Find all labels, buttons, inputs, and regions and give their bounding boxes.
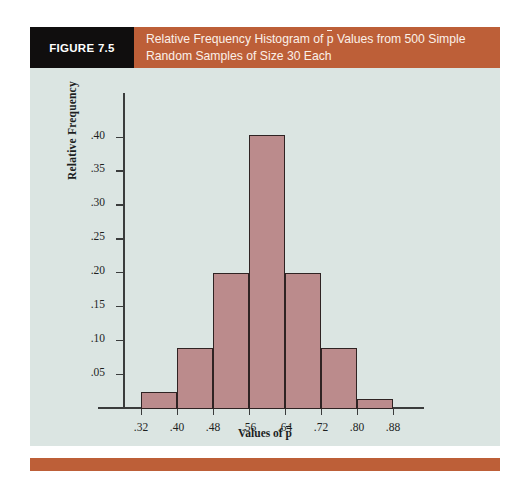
y-tick-label: .35 [91,162,105,174]
y-tick-label: .30 [91,196,105,208]
figure-number-label: FIGURE 7.5 [49,42,115,54]
x-tick [213,409,214,415]
bottom-rule [30,458,500,471]
x-axis-title: Values of p [30,427,500,439]
figure-title: Relative Frequency Histogram of p Values… [146,31,492,64]
figure-title-wrap: Relative Frequency Histogram of p Values… [134,27,500,68]
y-tick-label: .40 [91,129,105,141]
x-tick [357,409,358,415]
p-bar-symbol-axis: p [286,427,292,439]
y-tick-label: .15 [91,298,105,310]
y-tick: .25 [116,238,123,239]
p-bar-symbol-title: p [327,31,334,48]
y-tick: .10 [116,340,123,341]
x-tick [393,409,394,415]
histogram-bar [213,273,249,409]
x-tick [321,409,322,415]
figure-header-band: FIGURE 7.5 Relative Frequency Histogram … [30,27,500,68]
y-tick: .15 [116,306,123,307]
y-tick-label: .20 [91,264,105,276]
histogram-bar [177,348,213,409]
y-axis-title: Relative Frequency [66,81,78,180]
y-tick: .35 [116,170,123,171]
x-tick [285,409,286,415]
x-tick [249,409,250,415]
histogram-bar [249,135,285,409]
x-axis-title-prefix: Values of [238,427,286,439]
y-tick-label: .25 [91,230,105,242]
x-tick [141,409,142,415]
y-axis-line [123,93,125,409]
histogram-bar [285,273,321,409]
histogram-bar [321,348,357,409]
figure-panel: FIGURE 7.5 Relative Frequency Histogram … [30,27,500,446]
chart-plate: Relative Frequency .05.10.15.20.25.30.35… [30,68,500,446]
x-tick [177,409,178,415]
figure-title-part1: Relative Frequency Histogram of [146,32,327,46]
y-tick: .30 [116,204,123,205]
y-tick: .05 [116,374,123,375]
plot-area: .05.10.15.20.25.30.35.40 .32.40.48.56.64… [123,121,411,409]
y-tick: .40 [116,137,123,138]
figure-number-box: FIGURE 7.5 [30,27,134,68]
y-tick: .20 [116,272,123,273]
histogram-bar [357,399,393,409]
histogram-bar [141,392,177,409]
y-tick-label: .05 [91,366,105,378]
y-tick-label: .10 [91,332,105,344]
